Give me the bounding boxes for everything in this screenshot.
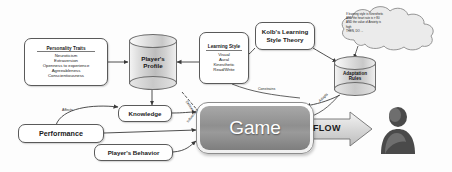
player-profile-label: Player's Profile: [129, 34, 177, 90]
player-behavior-label: Player's Behavior: [108, 149, 160, 156]
game-box: Game: [196, 102, 314, 154]
player-avatar-icon: [376, 104, 420, 160]
adaptation-rules-line2: Rules: [349, 76, 362, 82]
arrow-performance-to-game: [104, 130, 196, 133]
edge-label-constrains: Constrains: [258, 87, 275, 91]
rule-line5: THEN, DO ...: [346, 29, 422, 33]
knowledge-box: Knowledge: [118, 105, 172, 122]
arrow-behavior-to-game: [173, 141, 196, 152]
kolb-line1: Kolb's Learning: [262, 28, 309, 36]
personality-traits-title: Personality Traits: [37, 46, 95, 53]
personality-traits-card: Personality Traits Neuroticism Extravers…: [24, 38, 108, 86]
player-profile-datastore: Player's Profile: [129, 34, 177, 90]
diagram-canvas: Personality Traits Neuroticism Extravers…: [0, 0, 452, 172]
kolb-theory-card: Kolb's Learning Style Theory: [255, 22, 315, 50]
player-behavior-box: Player's Behavior: [94, 144, 173, 161]
game-inner: Game: [200, 106, 310, 150]
performance-label: Performance: [39, 129, 83, 138]
adaptation-rule-text: If learning style is Kinesthetic AND the…: [346, 12, 422, 33]
learning-style-card: Learning Style Visual Aural Kinesthetic …: [199, 32, 249, 84]
player-profile-line1: Player's: [141, 55, 165, 62]
adaptation-rule-cloud: If learning style is Kinesthetic AND the…: [336, 4, 448, 52]
personality-trait-item: Conscientiousness: [48, 73, 84, 78]
adaptation-rules-label: Adaptation Rules: [334, 56, 376, 96]
knowledge-label: Knowledge: [128, 110, 161, 117]
learning-style-title: Learning Style: [206, 44, 242, 51]
player-profile-line2: Profile: [143, 62, 162, 69]
flow-label: FLOW: [313, 123, 341, 133]
adaptation-rules-datastore: Adaptation Rules: [334, 56, 376, 96]
edge-label-affects: Affects: [62, 108, 73, 112]
game-label: Game: [229, 117, 281, 139]
kolb-line2: Style Theory: [266, 36, 303, 44]
learning-style-item: Read/Write: [213, 67, 234, 72]
performance-box: Performance: [18, 124, 104, 143]
